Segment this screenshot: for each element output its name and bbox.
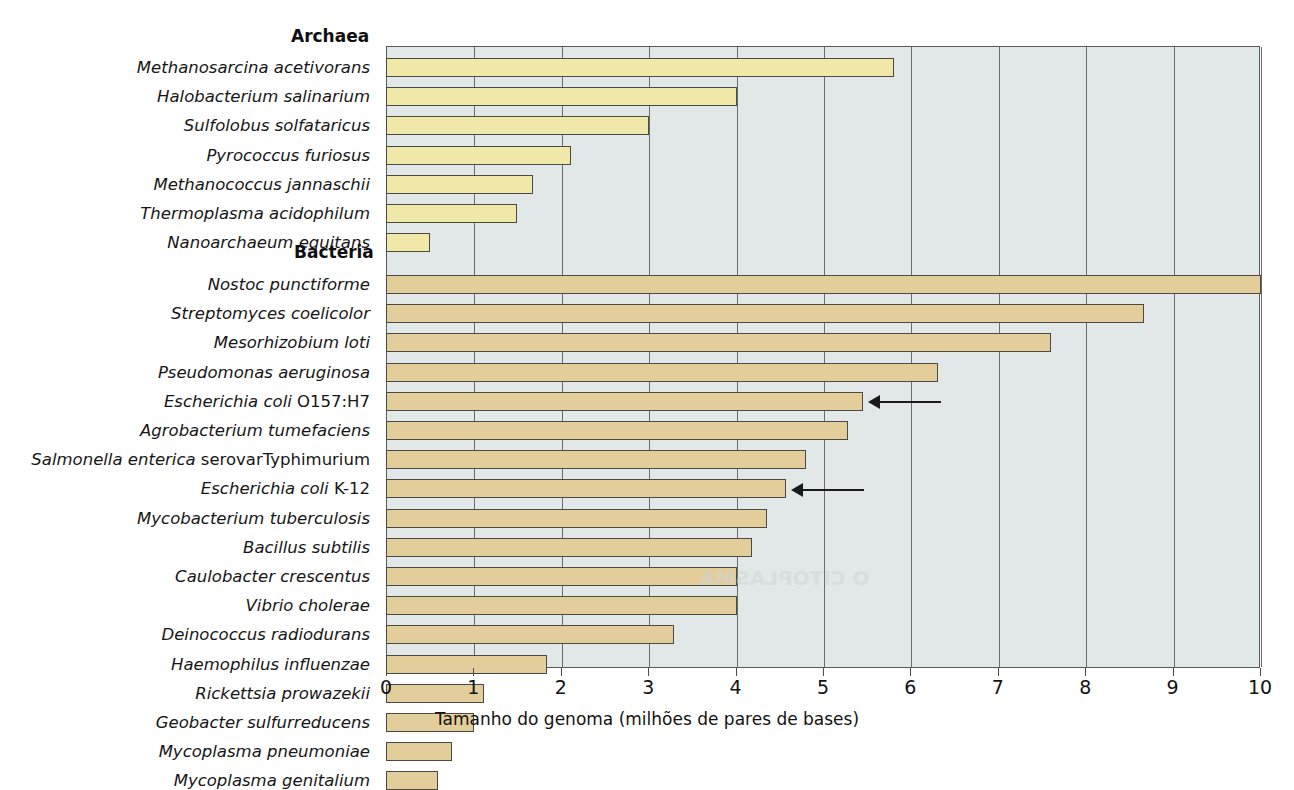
species-name-roman: O157:H7: [297, 392, 370, 411]
gridline-8: [1086, 47, 1087, 667]
x-tick-label-5: 5: [817, 676, 829, 698]
bar-thermoplasma-acidophilum: [386, 204, 517, 223]
annotation-arrow-escherichia-coli-k-12: [802, 489, 864, 491]
bar-mycoplasma-genitalium: [386, 771, 438, 790]
x-tick-6: [910, 668, 911, 676]
x-tick-label-3: 3: [642, 676, 654, 698]
x-tick-1: [473, 668, 474, 676]
species-label: Mycoplasma pneumoniae: [159, 742, 370, 761]
group-heading-archaea: Archaea: [291, 26, 369, 46]
x-tick-9: [1173, 668, 1174, 676]
species-label: Haemophilus influenzae: [171, 655, 370, 674]
species-label: Sulfolobus solfataricus: [184, 116, 370, 135]
x-axis-title: Tamanho do genoma (milhões de pares de b…: [0, 709, 1294, 729]
species-label: Pyrococcus furiosus: [206, 146, 370, 165]
bar-mycobacterium-tuberculosis: [386, 509, 767, 528]
bar-nanoarchaeum-equitans: [386, 233, 430, 252]
species-label: Escherichia coli K-12: [201, 479, 370, 498]
species-label: Methanococcus jannaschii: [153, 175, 370, 194]
species-label: Rickettsia prowazekii: [195, 684, 370, 703]
x-tick-label-4: 4: [730, 676, 742, 698]
x-tick-label-9: 9: [1167, 676, 1179, 698]
bar-methanococcus-jannaschii: [386, 175, 533, 194]
bar-mesorhizobium-loti: [386, 333, 1051, 352]
gridline-4: [737, 47, 738, 667]
bar-mycoplasma-pneumoniae: [386, 742, 452, 761]
species-name-roman: serovarTyphimurium: [201, 450, 370, 469]
species-label: Nanoarchaeum equitans: [167, 233, 370, 252]
bar-escherichia-coli-k-12: [386, 479, 786, 498]
x-tick-3: [648, 668, 649, 676]
species-label: Mycobacterium tuberculosis: [137, 509, 370, 528]
bar-sulfolobus-solfataricus: [386, 116, 649, 135]
x-tick-label-10: 10: [1248, 676, 1272, 698]
arrow-left-icon: [791, 483, 803, 497]
species-name-italic: Escherichia coli: [201, 479, 334, 498]
species-label: Deinococcus radiodurans: [161, 625, 370, 644]
species-label: Mycoplasma genitalium: [174, 771, 370, 790]
x-tick-0: [386, 668, 387, 676]
species-label: Methanosarcina acetivorans: [137, 58, 370, 77]
x-tick-label-0: 0: [380, 676, 392, 698]
bar-streptomyces-coelicolor: [386, 304, 1144, 323]
species-label: Vibrio cholerae: [246, 596, 370, 615]
bar-caulobacter-crescentus: [386, 567, 737, 586]
bar-halobacterium-salinarium: [386, 87, 737, 106]
x-tick-5: [823, 668, 824, 676]
bar-vibrio-cholerae: [386, 596, 737, 615]
gridline-5: [824, 47, 825, 667]
gridline-7: [999, 47, 1000, 667]
x-tick-label-6: 6: [904, 676, 916, 698]
x-tick-label-1: 1: [467, 676, 479, 698]
bar-bacillus-subtilis: [386, 538, 752, 557]
species-label: Caulobacter crescentus: [175, 567, 370, 586]
gridline-6: [911, 47, 912, 667]
species-label: Mesorhizobium loti: [214, 333, 370, 352]
species-name-italic: Salmonella enterica: [31, 450, 201, 469]
x-tick-2: [561, 668, 562, 676]
x-tick-label-7: 7: [992, 676, 1004, 698]
species-name-italic: Escherichia coli: [164, 392, 297, 411]
bar-salmonella-enterica-serovartyphimurium: [386, 450, 806, 469]
plot-area: [386, 46, 1260, 668]
gridline-9: [1174, 47, 1175, 667]
x-tick-label-8: 8: [1079, 676, 1091, 698]
species-label: Agrobacterium tumefaciens: [140, 421, 370, 440]
species-label: Pseudomonas aeruginosa: [158, 363, 370, 382]
species-label: Nostoc punctiforme: [208, 275, 370, 294]
species-name-roman: K-12: [334, 479, 370, 498]
x-tick-10: [1260, 668, 1261, 676]
gridline-10: [1261, 47, 1262, 667]
bar-agrobacterium-tumefaciens: [386, 421, 848, 440]
bar-nostoc-punctiforme: [386, 275, 1261, 294]
bar-deinococcus-radiodurans: [386, 625, 674, 644]
species-label: Escherichia coli O157:H7: [164, 392, 370, 411]
bar-methanosarcina-acetivorans: [386, 58, 894, 77]
species-label: Salmonella enterica serovarTyphimurium: [31, 450, 370, 469]
x-tick-7: [998, 668, 999, 676]
x-tick-label-2: 2: [555, 676, 567, 698]
annotation-arrow-escherichia-coli-o157-h7: [879, 401, 941, 403]
species-label: Thermoplasma acidophilum: [140, 204, 370, 223]
species-label: Streptomyces coelicolor: [171, 304, 370, 323]
x-tick-4: [736, 668, 737, 676]
bar-pseudomonas-aeruginosa: [386, 363, 938, 382]
x-tick-8: [1085, 668, 1086, 676]
bar-haemophilus-influenzae: [386, 655, 547, 674]
bar-escherichia-coli-o157-h7: [386, 392, 863, 411]
species-label: Halobacterium salinarium: [157, 87, 370, 106]
species-label: Bacillus subtilis: [243, 538, 370, 557]
arrow-left-icon: [868, 395, 880, 409]
bar-pyrococcus-furiosus: [386, 146, 571, 165]
